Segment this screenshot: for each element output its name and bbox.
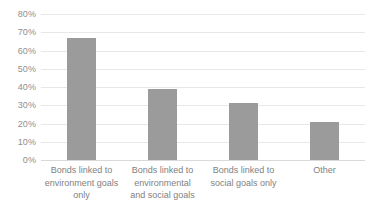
x-category-line: Bonds linked to xyxy=(205,164,282,177)
x-category-label: Bonds linked tosocial goals only xyxy=(203,164,284,214)
y-tick-label: 40% xyxy=(0,83,36,92)
y-tick-label: 0% xyxy=(0,156,36,165)
x-category-line: social goals only xyxy=(205,177,282,190)
y-tick-label: 70% xyxy=(0,28,36,37)
x-category-line: only xyxy=(43,189,120,202)
bars-layer xyxy=(41,14,365,160)
bar-chart: 80% 70% 60% 50% 40% 30% 20% 10% 0% Bonds… xyxy=(0,0,377,216)
x-category-line: environmental xyxy=(124,177,201,190)
gridline-0-baseline xyxy=(41,160,365,161)
y-tick-label: 80% xyxy=(0,10,36,19)
y-tick-label: 60% xyxy=(0,46,36,55)
x-category-line: and social goals xyxy=(124,189,201,202)
bar-bonds-environmental-and-social-goals[interactable] xyxy=(148,89,177,160)
x-category-line: Other xyxy=(286,164,363,177)
x-category-line: environment goals xyxy=(43,177,120,190)
bar-bonds-social-goals-only[interactable] xyxy=(229,103,258,160)
y-axis: 80% 70% 60% 50% 40% 30% 20% 10% 0% xyxy=(0,14,36,160)
y-tick-label: 20% xyxy=(0,119,36,128)
y-tick-label: 30% xyxy=(0,101,36,110)
bar-other[interactable] xyxy=(310,122,339,160)
x-category-label: Bonds linked toenvironment goalsonly xyxy=(41,164,122,214)
x-axis: Bonds linked toenvironment goalsonly Bon… xyxy=(41,164,365,214)
x-category-line: Bonds linked to xyxy=(124,164,201,177)
y-tick-label: 10% xyxy=(0,137,36,146)
bar-bonds-environment-goals-only[interactable] xyxy=(67,38,96,160)
x-category-label: Bonds linked toenvironmentaland social g… xyxy=(122,164,203,214)
x-category-line: Bonds linked to xyxy=(43,164,120,177)
x-category-label: Other xyxy=(284,164,365,214)
y-tick-label: 50% xyxy=(0,64,36,73)
